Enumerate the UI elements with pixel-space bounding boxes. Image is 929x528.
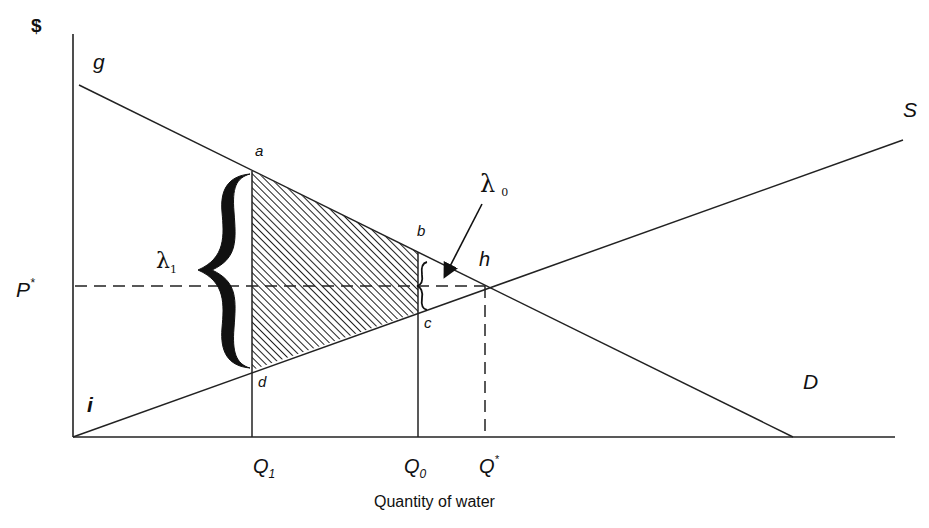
lambda1-brace xyxy=(198,174,250,368)
q0-label: Q0 xyxy=(404,455,427,481)
supply-start-label: i xyxy=(87,393,94,416)
point-a-label: a xyxy=(255,142,263,159)
demand-label: D xyxy=(803,370,818,393)
point-d-label: d xyxy=(258,373,267,390)
y-axis-label: $ xyxy=(31,15,42,36)
shaded-region-abcd xyxy=(252,171,418,370)
qstar-label: Q* xyxy=(479,453,500,477)
demand-start-label: g xyxy=(93,50,105,73)
demand-curve xyxy=(79,85,793,437)
diagram-canvas: $ g S D i a b c d h P* λ1 λ0 Q1 Q0 Q* Qu… xyxy=(0,0,929,528)
lambda0-label: λ0 xyxy=(480,170,508,199)
point-b-label: b xyxy=(417,222,425,239)
q1-label: Q1 xyxy=(253,455,275,481)
lambda1-label: λ1 xyxy=(156,248,177,276)
price-label: P* xyxy=(16,276,35,301)
x-axis-label: Quantity of water xyxy=(374,493,496,510)
lambda0-arrow xyxy=(445,204,482,276)
supply-label: S xyxy=(903,98,917,121)
point-c-label: c xyxy=(424,314,432,331)
point-h-label: h xyxy=(479,248,490,270)
